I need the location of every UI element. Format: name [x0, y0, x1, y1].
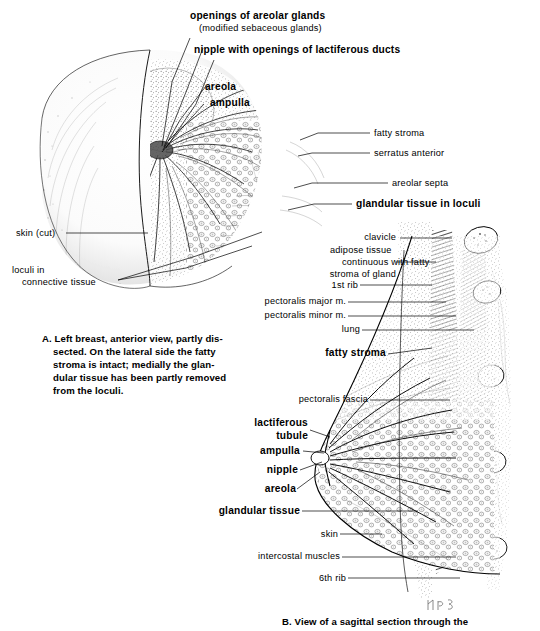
label-fatty-stroma-b: fatty stroma [278, 347, 386, 359]
label-areola-a: areola [205, 81, 236, 93]
caption-b-line-1: B. View of a sagittal section through th… [282, 616, 468, 629]
label-pectoralis-fascia: pectoralis fascia [258, 394, 368, 405]
label-areola-b: areola [228, 483, 296, 495]
label-pectoralis-minor: pectoralis minor m. [248, 310, 346, 321]
panel-a-leaders [66, 38, 388, 280]
label-1st-rib: 1st rib [258, 280, 358, 291]
rib-sections [461, 223, 508, 560]
label-adipose-tissue: adipose tissue [330, 245, 392, 256]
label-tubule: tubule [228, 430, 308, 442]
artist-signature [428, 600, 452, 610]
label-ampulla-a: ampulla [210, 97, 250, 109]
label-lung: lung [300, 324, 360, 335]
label-adipose-stroma-of-gland: stroma of gland [268, 269, 396, 280]
label-pectoralis-major: pectoralis major m. [248, 296, 346, 307]
label-lactiferous: lactiferous [228, 417, 308, 429]
panel-a-artwork [30, 40, 324, 300]
label-6th-rib: 6th rib [288, 573, 346, 584]
caption-a-line-1: A. Left breast, anterior view, partly di… [42, 333, 223, 346]
label-openings-of-areolar-glands: openings of areolar glands [190, 10, 325, 22]
label-serratus-anterior: serratus anterior [374, 148, 444, 159]
label-areolar-septa: areolar septa [392, 178, 448, 189]
label-ampulla-b: ampulla [228, 445, 300, 457]
label-intercostal-muscles: intercostal muscles [224, 551, 340, 562]
label-connective-tissue: connective tissue [22, 277, 96, 288]
label-nipple-b: nipple [228, 464, 298, 476]
label-clavicle: clavicle [300, 232, 396, 243]
label-skin-b: skin [288, 529, 338, 540]
label-nipple-with-openings-of-lactiferous-ducts: nipple with openings of lactiferous duct… [194, 44, 400, 56]
caption-a-line-3: stroma is intact; medially the glan- [42, 359, 214, 372]
label-modified-sebaceous-glands: (modified sebaceous glands) [199, 23, 322, 34]
caption-a-line-4: dular tissue has been partly removed [42, 372, 226, 385]
label-loculi-in: loculi in [12, 265, 44, 276]
label-skin-cut: skin (cut) [16, 228, 55, 239]
caption-a-line-5: from the loculi. [42, 385, 123, 398]
label-glandular-tissue-b: glandular tissue [186, 505, 300, 517]
caption-a-line-2: sected. On the lateral side the fatty [42, 346, 216, 359]
figure-page: openings of areolar glands (modified seb… [0, 0, 540, 631]
label-fatty-stroma-a: fatty stroma [374, 128, 424, 139]
label-glandular-tissue-in-loculi: glandular tissue in loculi [356, 198, 481, 210]
label-adipose-continuous-with-fatty: continuous with fatty [342, 257, 429, 268]
